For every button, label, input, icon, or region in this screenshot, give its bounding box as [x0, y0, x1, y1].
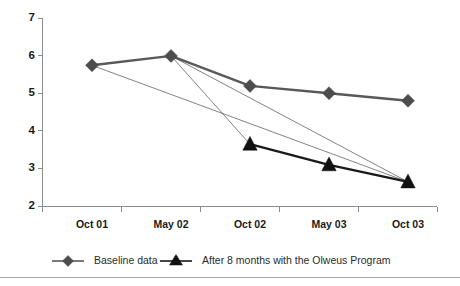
series-baseline-data: [86, 49, 415, 107]
y-tick-label: 3: [29, 161, 35, 173]
y-tick-label: 2: [29, 199, 35, 211]
legend-item-after-olweus-program[interactable]: After 8 months with the Olweus Program: [160, 254, 391, 266]
legend-label: Baseline data: [94, 254, 158, 266]
data-point-marker: [86, 59, 99, 72]
series-after-olweus-program: [243, 136, 415, 188]
diamond-marker-icon: [63, 256, 74, 267]
data-point-marker: [402, 94, 415, 107]
x-tick-label: Oct 02: [234, 218, 266, 230]
connector-line: [171, 56, 250, 144]
y-axis-labels: 7 6 5 4 3 2: [29, 11, 36, 211]
x-axis-labels: Oct 01 May 02 Oct 02 May 03 Oct 03: [76, 218, 424, 230]
chart-legend: Baseline data After 8 months with the Ol…: [52, 254, 391, 266]
y-tick-label: 6: [29, 49, 35, 61]
line-chart: 7 6 5 4 3 2 Oct 01: [0, 0, 460, 286]
chart-container: 7 6 5 4 3 2 Oct 01: [0, 0, 460, 286]
x-axis: [43, 207, 438, 213]
x-tick-label: Oct 01: [76, 218, 108, 230]
data-point-marker: [244, 79, 257, 92]
triangle-marker-icon: [170, 255, 183, 266]
data-point-marker: [165, 49, 178, 62]
connector-lines: [92, 56, 408, 182]
y-tick-label: 5: [29, 86, 36, 98]
legend-item-baseline-data[interactable]: Baseline data: [52, 254, 158, 266]
x-tick-label: Oct 03: [392, 218, 424, 230]
data-point-marker: [323, 87, 336, 100]
baseline-polyline: [92, 56, 408, 101]
y-tick-label: 7: [29, 11, 35, 23]
y-axis: [38, 18, 43, 206]
connector-line: [171, 56, 408, 182]
legend-label: After 8 months with the Olweus Program: [202, 254, 391, 266]
x-tick-label: May 03: [311, 218, 346, 230]
y-tick-label: 4: [29, 124, 36, 136]
x-tick-label: May 02: [153, 218, 188, 230]
